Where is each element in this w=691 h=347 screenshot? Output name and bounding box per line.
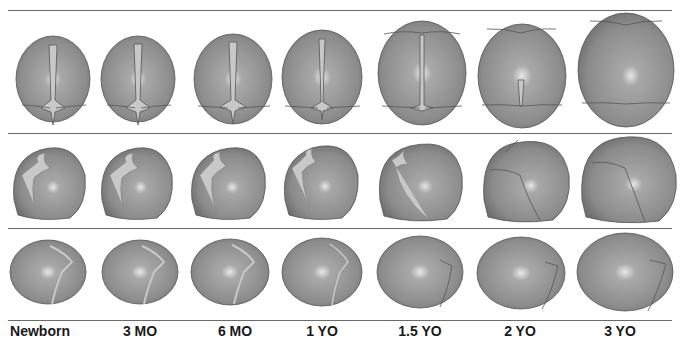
age-label-newborn: Newborn [10, 323, 70, 339]
row-top-view [16, 13, 674, 128]
skull-growth-figure [0, 0, 691, 320]
skull-top-1-5yo [378, 21, 466, 125]
skull-back-1yo [282, 238, 362, 306]
age-label-6mo: 6 MO [218, 323, 252, 339]
skull-top-1yo [282, 30, 362, 124]
skull-back-1-5yo [377, 236, 463, 308]
age-label-1-5yo: 1.5 YO [398, 323, 441, 339]
skull-side-2yo [484, 140, 570, 222]
age-label-2yo: 2 YO [504, 323, 536, 339]
skull-side-1-5yo [379, 144, 462, 221]
skull-top-3mo [101, 36, 175, 125]
age-label-3mo: 3 MO [123, 323, 157, 339]
skull-top-newborn [16, 36, 90, 125]
skull-top-2yo [478, 24, 566, 128]
skull-top-3yo [578, 13, 674, 127]
skull-side-newborn [14, 148, 86, 220]
skull-side-1yo [284, 146, 358, 220]
divider-bottom [8, 320, 672, 321]
skull-back-2yo [477, 237, 565, 309]
age-label-3yo: 3 YO [604, 323, 636, 339]
row-lateral-back-view [10, 233, 673, 311]
age-labels: Newborn 3 MO 6 MO 1 YO 1.5 YO 2 YO 3 YO [0, 323, 691, 345]
skull-side-6mo [192, 148, 266, 220]
skull-back-3yo [577, 233, 673, 311]
skull-side-3yo [582, 137, 677, 223]
row-lateral-front-view [14, 137, 677, 223]
age-label-1yo: 1 YO [306, 323, 338, 339]
skull-back-6mo [191, 239, 269, 305]
skull-back-3mo [102, 240, 178, 304]
skull-back-newborn [10, 240, 86, 304]
skull-top-6mo [194, 34, 272, 124]
skull-side-3mo [102, 148, 173, 220]
